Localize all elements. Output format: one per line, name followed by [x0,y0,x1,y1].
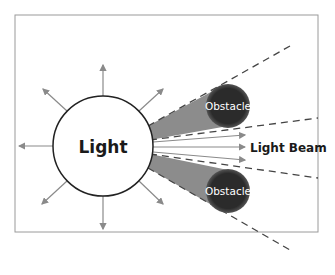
obstacle-upper-label: Obstacle [205,100,251,112]
light-obstacle-diagram: Light Obstacle Obstacle Light Beam [0,0,335,275]
obstacle-lower-label: Obstacle [205,185,251,197]
light-beam-label: Light Beam [250,141,327,155]
light-label: Light [78,137,127,157]
